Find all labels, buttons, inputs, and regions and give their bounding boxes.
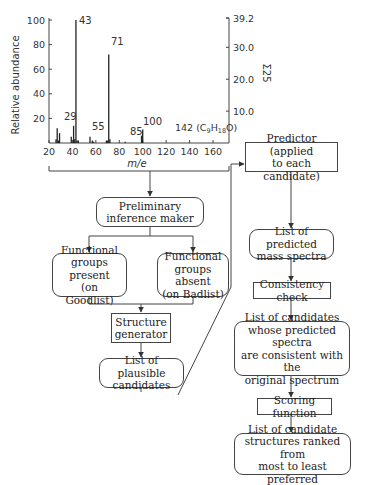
x-axis-title: m/e [127,158,146,169]
scoring-function-node: Scoring function [257,398,332,415]
right-y-axis-title: Σ25 [261,63,272,82]
y-axis-title: Relative abundance [10,35,21,134]
node-label: Functional groups absent (on Badlist) [162,250,224,300]
node-label: Structure generator [115,316,168,341]
predicted-spectra-node: List of predicted mass spectra [249,229,334,259]
x-tick-label: 140 [181,146,199,157]
preliminary-inference-maker-node: Preliminary inference maker [96,197,204,227]
peak-label: 55 [92,121,105,132]
node-label: Predictor (applied to each candidate) [250,132,333,182]
y-tick-label: 60 [33,64,45,75]
node-label: Functional groups present (on Goodlist) [57,244,122,307]
node-label: List of candidates whose predicted spect… [239,311,345,386]
peak-label: 29 [64,111,77,122]
peak-label-142: 142 (C9H18O) [175,122,237,135]
right-y-tick-label: 20.0 [233,74,254,85]
consistency-check-node: Consistency check [253,282,331,299]
right-y-tick-label: 30.0 [233,42,254,53]
badlist-node: Functional groups absent (on Badlist) [157,253,229,297]
node-label: Consistency check [258,278,326,303]
y-tick-label: 20 [33,113,45,124]
x-tick-label: 100 [134,146,152,157]
right-y-tick-label: 39.2 [233,13,254,24]
peak-label: 43 [79,15,92,26]
x-tick-label: 40 [66,146,78,157]
goodlist-node: Functional groups present (on Goodlist) [52,253,127,297]
x-tick-label: 160 [204,146,222,157]
node-label: List of plausible candidates [104,354,179,392]
y-tick-label: 40 [33,88,45,99]
consistent-candidates-node: List of candidates whose predicted spect… [234,321,350,376]
x-tick-label: 20 [43,146,55,157]
x-tick-label: 120 [157,146,175,157]
peak-label: 71 [111,36,124,47]
y-tick-label: 80 [33,39,45,50]
right-y-tick-label: 10.0 [233,106,254,117]
peak-label: 85 [130,126,143,137]
peak-label: 100 [143,116,162,127]
node-label: Preliminary inference maker [106,200,193,225]
ranked-structures-node: List of candidate structures ranked from… [234,433,351,475]
node-label: List of candidate structures ranked from… [239,423,346,485]
node-label: List of predicted mass spectra [254,225,329,263]
x-tick-label: 80 [113,146,125,157]
plausible-candidates-node: List of plausible candidates [99,358,184,388]
x-tick-label: 60 [90,146,102,157]
structure-generator-node: Structure generator [111,313,171,343]
predictor-node: Predictor (applied to each candidate) [245,142,338,172]
y-tick-label: 100 [27,15,45,26]
node-label: Scoring function [262,394,327,419]
